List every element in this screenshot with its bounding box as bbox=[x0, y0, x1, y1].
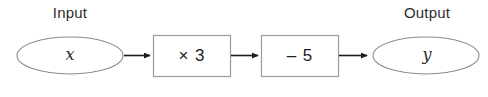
step-1-node-label: × 3 bbox=[153, 47, 231, 64]
output-caption: Output bbox=[374, 5, 480, 20]
output-node-label: y bbox=[374, 47, 480, 63]
step-2-node-label: – 5 bbox=[261, 47, 339, 64]
input-node-label: x bbox=[17, 47, 123, 63]
input-caption: Input bbox=[17, 5, 123, 20]
function-machine-diagram: Input Output x × 3 – 5 y bbox=[0, 0, 488, 97]
